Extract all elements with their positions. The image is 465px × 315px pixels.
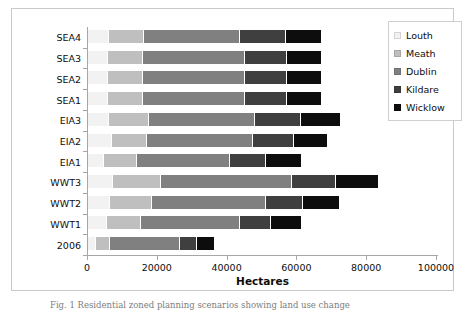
bar-segment-wicklow <box>303 196 339 209</box>
bar-segment-dublin <box>143 92 245 105</box>
bar-segment-kildare <box>240 216 271 229</box>
legend-item: Kildare <box>394 80 458 98</box>
bar-segment-kildare <box>245 71 287 84</box>
bar-segment-wicklow <box>287 71 322 84</box>
bar-segment-kildare <box>240 30 286 43</box>
bar-segment-meath <box>108 92 143 105</box>
bar-segment-wicklow <box>287 92 322 105</box>
y-axis-tick-label: SEA4 <box>56 32 81 43</box>
bar-segment-louth <box>88 237 96 250</box>
bar-segment-kildare <box>230 154 266 167</box>
y-axis-labels: SEA4SEA3SEA2SEA1EIA3EIA2EIA1WWT3WWT2WWT1… <box>30 27 81 255</box>
bar-segment-louth <box>88 196 110 209</box>
y-axis-tick <box>83 68 87 69</box>
bar-segment-wicklow <box>286 30 321 43</box>
bar-segment-dublin <box>161 175 292 188</box>
y-axis-tick-label: WWT3 <box>50 177 81 188</box>
legend-swatch-icon <box>394 86 401 93</box>
bar-segment-kildare <box>255 113 301 126</box>
legend-swatch-icon <box>394 50 401 57</box>
bar-segment-wicklow <box>271 216 301 229</box>
x-axis-title: Hectares <box>87 275 438 287</box>
x-axis-tick <box>296 255 297 260</box>
y-axis-tick <box>83 234 87 235</box>
y-axis-tick-label: 2006 <box>57 239 81 250</box>
legend-swatch-icon <box>394 104 401 111</box>
x-axis-tick-label: 100000 <box>418 262 454 273</box>
bar-segment-wicklow <box>336 175 378 188</box>
bar-segment-meath <box>109 113 149 126</box>
bar-segment-dublin <box>137 154 230 167</box>
legend-label: Kildare <box>406 84 439 95</box>
y-axis-tick <box>83 172 87 173</box>
y-axis-tick <box>83 151 87 152</box>
y-axis-tick-label: WWT1 <box>50 218 81 229</box>
bar-segment-meath <box>113 175 161 188</box>
chart-page: SEA4SEA3SEA2SEA1EIA3EIA2EIA1WWT3WWT2WWT1… <box>0 0 465 315</box>
legend-swatch-icon <box>394 68 401 75</box>
bar-segment-louth <box>88 175 113 188</box>
legend-item: Wicklow <box>394 98 458 116</box>
bar-segment-dublin <box>143 51 245 64</box>
chart-frame: SEA4SEA3SEA2SEA1EIA3EIA2EIA1WWT3WWT2WWT1… <box>11 8 454 291</box>
legend-label: Dublin <box>406 66 437 77</box>
y-axis-tick <box>83 110 87 111</box>
y-axis-tick-label: EIA2 <box>60 136 81 147</box>
bar-segment-louth <box>88 134 112 147</box>
bar-segment-meath <box>96 237 110 250</box>
bar-segment-dublin <box>147 134 253 147</box>
y-axis-tick <box>83 193 87 194</box>
y-axis-tick-label: SEA1 <box>56 94 81 105</box>
y-axis-tick <box>83 214 87 215</box>
bar-segment-kildare <box>245 51 287 64</box>
legend-label: Meath <box>406 48 436 59</box>
bar-segment-louth <box>88 30 109 43</box>
bar-segment-meath <box>112 134 147 147</box>
bar-segment-kildare <box>180 237 197 250</box>
bar-segment-wicklow <box>197 237 214 250</box>
bar-segment-louth <box>88 92 108 105</box>
bar-segment-meath <box>107 216 141 229</box>
bar-segment-wicklow <box>287 51 322 64</box>
bar-segment-meath <box>108 51 143 64</box>
bar-segment-dublin <box>149 113 255 126</box>
y-axis-tick-label: EIA1 <box>60 156 81 167</box>
y-axis-tick-label: EIA3 <box>60 115 81 126</box>
bar-segment-meath <box>110 196 152 209</box>
x-axis-tick <box>436 255 437 260</box>
bar-segment-louth <box>88 154 104 167</box>
y-axis-tick-label: SEA3 <box>56 53 81 64</box>
x-axis-tick-label: 20000 <box>142 262 172 273</box>
bar-segment-louth <box>88 216 107 229</box>
y-axis-tick <box>83 89 87 90</box>
bar-segment-dublin <box>152 196 266 209</box>
x-axis-tick <box>157 255 158 260</box>
x-axis-tick <box>366 255 367 260</box>
bar-segment-louth <box>88 113 109 126</box>
bar-segment-dublin <box>141 216 240 229</box>
legend-item: Dublin <box>394 62 458 80</box>
bar-segment-meath <box>108 71 143 84</box>
bar-segment-kildare <box>292 175 336 188</box>
y-axis-tick-label: WWT2 <box>50 198 81 209</box>
y-axis-tick <box>83 131 87 132</box>
x-axis-tick-label: 0 <box>84 262 90 273</box>
bar-segment-kildare <box>245 92 287 105</box>
bar-segment-meath <box>109 30 144 43</box>
bar-segment-wicklow <box>294 134 327 147</box>
y-axis-tick <box>83 48 87 49</box>
bar-segment-wicklow <box>301 113 340 126</box>
bar-segment-louth <box>88 71 108 84</box>
y-axis-tick-label: SEA2 <box>56 73 81 84</box>
legend-swatch-icon <box>394 32 401 39</box>
x-axis-line <box>87 255 438 256</box>
figure-caption: Fig. 1 Residential zoned planning scenar… <box>50 300 450 315</box>
legend-label: Wicklow <box>406 102 445 113</box>
x-axis-tick-label: 60000 <box>281 262 311 273</box>
bar-segment-meath <box>104 154 137 167</box>
x-axis-tick-label: 80000 <box>351 262 381 273</box>
bar-segment-kildare <box>266 196 303 209</box>
bar-segment-dublin <box>143 71 245 84</box>
legend-item: Louth <box>394 26 458 44</box>
bar-segment-wicklow <box>266 154 301 167</box>
